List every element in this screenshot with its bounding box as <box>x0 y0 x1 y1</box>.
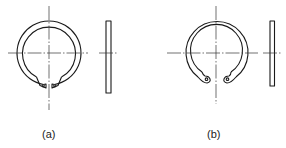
panel-b-label: (b) <box>207 128 220 140</box>
internal-ring-side-view <box>270 21 275 86</box>
panel-a-label: (a) <box>42 128 55 140</box>
external-ring-side-view <box>106 21 111 93</box>
internal-ring-front-view <box>186 22 248 83</box>
circlip-drawing <box>0 0 286 148</box>
